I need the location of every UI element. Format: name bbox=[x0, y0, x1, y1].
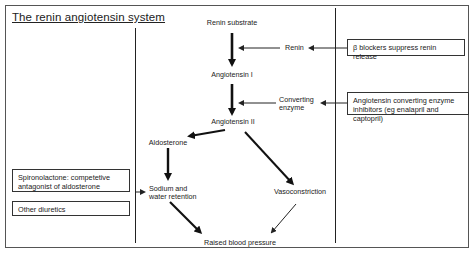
arrow-vaso-to-bp bbox=[272, 204, 296, 232]
spiro-line-1: Spironolactone: competetive bbox=[18, 173, 124, 182]
converting-line-2: enzyme bbox=[279, 104, 314, 112]
node-angiotensin-2: Angiotensin II bbox=[211, 118, 255, 126]
node-raised-blood-pressure: Raised blood pressure bbox=[204, 239, 276, 247]
node-sodium-water-retention: Sodium and water retention bbox=[149, 185, 197, 201]
box-other-diuretics: Other diuretics bbox=[12, 201, 130, 216]
box-spironolactone: Spironolactone: competetive antagonist o… bbox=[12, 169, 130, 192]
node-converting-enzyme: Converting enzyme bbox=[279, 96, 314, 112]
node-angiotensin-1: Angiotensin I bbox=[211, 71, 253, 79]
spiro-line-2: antagonist of aldosterone bbox=[18, 182, 124, 191]
box-ace-inhibitors: Angiotensin converting enzyme inhibitors… bbox=[347, 92, 469, 115]
box-beta-blockers: β blockers suppress renin release bbox=[347, 39, 465, 56]
node-vasoconstriction: Vasoconstriction bbox=[274, 188, 326, 196]
arrow-ang2-to-aldosterone bbox=[190, 130, 225, 136]
node-renin: Renin bbox=[285, 44, 304, 52]
ace-line-2: inhibitors (eg enalapril and captopril) bbox=[353, 105, 463, 123]
sodium-line-2: water retention bbox=[149, 193, 197, 201]
node-aldosterone: Aldosterone bbox=[149, 139, 187, 147]
node-renin-substrate: Renin substrate bbox=[207, 19, 257, 27]
arrow-sodium-to-bp bbox=[170, 202, 200, 232]
arrow-ang2-to-vasoconstriction bbox=[245, 132, 292, 183]
ace-line-1: Angiotensin converting enzyme bbox=[353, 96, 463, 105]
